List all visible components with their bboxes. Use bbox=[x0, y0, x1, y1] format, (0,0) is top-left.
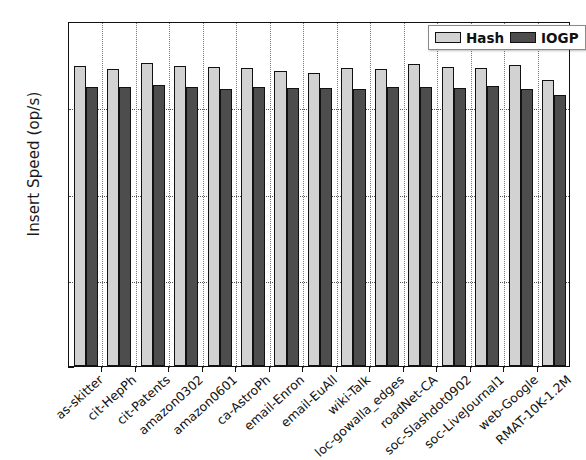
legend-label-iogp: IOGP bbox=[541, 30, 578, 46]
bar-hash-email-EuAll bbox=[308, 73, 320, 366]
bar-hash-loc-gowalla_edges bbox=[375, 69, 387, 366]
bar-iogp-amazon0302 bbox=[186, 87, 198, 366]
bar-iogp-web-Google bbox=[521, 89, 533, 366]
bar-iogp-email-EuAll bbox=[320, 88, 332, 366]
y-axis-title: Insert Speed (op/s) bbox=[25, 34, 43, 294]
bar-hash-ca-AstroPh bbox=[241, 68, 253, 366]
bar-iogp-cit-Patents bbox=[153, 85, 165, 366]
vertical-gridline-12 bbox=[471, 23, 472, 368]
bar-hash-cit-HepPh bbox=[107, 69, 119, 366]
bar-iogp-ca-AstroPh bbox=[253, 87, 265, 366]
legend-swatch-iogp bbox=[510, 32, 536, 43]
vertical-gridline-5 bbox=[236, 23, 237, 368]
vertical-gridline-10 bbox=[404, 23, 405, 368]
bar-iogp-as-skitter bbox=[86, 87, 98, 366]
bar-hash-amazon0302 bbox=[174, 66, 186, 366]
bar-iogp-wiki-Talk bbox=[353, 89, 365, 366]
bar-iogp-loc-gowalla_edges bbox=[387, 87, 399, 366]
bar-iogp-soc-LiveJournal1 bbox=[487, 86, 499, 366]
chart-legend: Hash IOGP bbox=[428, 25, 586, 50]
legend-swatch-hash bbox=[435, 32, 461, 43]
plot-area bbox=[68, 22, 570, 367]
vertical-gridline-14 bbox=[538, 23, 539, 368]
bar-iogp-soc-Slashdot0902 bbox=[454, 88, 466, 366]
bar-hash-web-Google bbox=[509, 65, 521, 366]
bar-hash-cit-Patents bbox=[141, 63, 153, 366]
bar-iogp-RMAT-10K-1.2M bbox=[554, 95, 566, 366]
vertical-gridline-8 bbox=[337, 23, 338, 368]
vertical-gridline-13 bbox=[504, 23, 505, 368]
vertical-gridline-3 bbox=[169, 23, 170, 368]
bar-hash-amazon0601 bbox=[208, 67, 220, 366]
vertical-gridline-4 bbox=[203, 23, 204, 368]
bar-hash-soc-LiveJournal1 bbox=[475, 68, 487, 366]
vertical-gridline-1 bbox=[102, 23, 103, 368]
vertical-gridline-2 bbox=[136, 23, 137, 368]
bar-iogp-roadNet-CA bbox=[420, 87, 432, 366]
vertical-gridline-9 bbox=[370, 23, 371, 368]
bar-hash-as-skitter bbox=[74, 66, 86, 366]
bar-iogp-amazon0601 bbox=[220, 89, 232, 366]
bar-hash-email-Enron bbox=[274, 71, 286, 366]
legend-label-hash: Hash bbox=[466, 30, 504, 46]
legend-entry-iogp: IOGP bbox=[510, 30, 578, 46]
bar-hash-wiki-Talk bbox=[341, 68, 353, 366]
y-tick-mark-0 bbox=[68, 367, 74, 368]
vertical-gridline-7 bbox=[303, 23, 304, 368]
bar-hash-RMAT-10K-1.2M bbox=[542, 80, 554, 366]
bar-hash-roadNet-CA bbox=[408, 64, 420, 366]
vertical-gridline-11 bbox=[437, 23, 438, 368]
legend-entry-hash: Hash bbox=[435, 30, 504, 46]
vertical-gridline-6 bbox=[270, 23, 271, 368]
bar-iogp-cit-HepPh bbox=[119, 87, 131, 366]
bar-hash-soc-Slashdot0902 bbox=[442, 67, 454, 366]
bar-iogp-email-Enron bbox=[287, 88, 299, 366]
